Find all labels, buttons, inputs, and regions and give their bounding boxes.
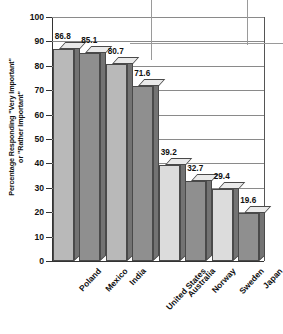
y-axis-label-container: Percentage Responding "Very Important" o… [0, 0, 25, 268]
bar [159, 165, 180, 261]
bar [212, 189, 233, 261]
x-axis-category-label: India [127, 266, 148, 287]
y-axis-tick-label: 0 [39, 256, 44, 266]
bar-value-label: 85.1 [81, 36, 97, 45]
scan-artifact-line [247, 0, 248, 45]
x-axis-category-label: Japan [261, 266, 283, 291]
bar-front-face [185, 181, 206, 261]
bar [53, 49, 74, 261]
bar-front-face [53, 49, 74, 261]
bar [132, 86, 153, 261]
scan-artifact-line [130, 43, 283, 44]
bar-front-face [79, 53, 100, 261]
y-axis-tick-label: 80 [34, 61, 44, 71]
y-axis-tick-label: 90 [34, 36, 44, 46]
y-axis-tick [46, 261, 52, 262]
bar-front-face [212, 189, 233, 261]
bar-front-face [238, 213, 259, 261]
bar-value-label: 19.6 [240, 196, 256, 205]
bar [238, 213, 259, 261]
y-axis-label: Percentage Responding "Very Important" o… [7, 2, 25, 252]
bar-front-face [132, 86, 153, 261]
bar-value-label: 39.2 [161, 148, 177, 157]
y-axis-tick-label: 50 [34, 134, 44, 144]
scan-artifact-line [151, 0, 152, 60]
bar-series: 86.885.180.771.639.232.729.419.6 [52, 17, 264, 261]
bar-top-face [138, 79, 165, 86]
x-axis-category-label: Poland [77, 266, 103, 293]
bar-value-label: 71.6 [134, 69, 150, 78]
y-axis-tick-label: 100 [30, 12, 44, 22]
bar-value-label: 80.7 [108, 47, 124, 56]
bar-chart: Percentage Responding "Very Important" o… [0, 0, 283, 334]
bar-value-label: 86.8 [55, 32, 71, 41]
plot-area: 0102030405060708090100 86.885.180.771.63… [52, 17, 265, 261]
bar [185, 181, 206, 261]
y-axis-tick-label: 20 [34, 207, 44, 217]
bar-value-label: 32.7 [187, 164, 203, 173]
bar-top-face [112, 57, 139, 64]
bar-side-face [259, 208, 265, 261]
y-axis-tick-label: 30 [34, 183, 44, 193]
x-axis-category-labels: PolandMexicoIndiaUnited StatesAustraliaN… [52, 266, 264, 334]
bar-front-face [106, 64, 127, 261]
bar [79, 53, 100, 261]
bar-top-face [244, 206, 271, 213]
bar-value-label: 29.4 [214, 172, 230, 181]
y-axis-tick-label: 40 [34, 158, 44, 168]
y-axis-tick-label: 70 [34, 85, 44, 95]
bar-top-face [218, 182, 245, 189]
bar [106, 64, 127, 261]
y-axis-tick-label: 60 [34, 110, 44, 120]
y-axis-tick-label: 10 [34, 232, 44, 242]
bar-front-face [159, 165, 180, 261]
